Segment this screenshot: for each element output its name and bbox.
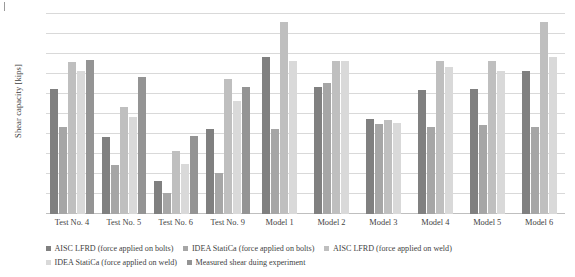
bar [242, 87, 250, 214]
chart-legend: AISC LFRD (force applied on bolts)IDEA S… [46, 243, 566, 268]
bar [289, 61, 297, 214]
bar [393, 123, 401, 214]
bar-group [98, 14, 150, 214]
legend-item: IDEA StatiCa (force applied on weld) [46, 257, 177, 268]
bar [77, 71, 85, 214]
bar-group [202, 14, 254, 214]
bar [181, 164, 189, 214]
bar [531, 127, 539, 214]
bar [427, 127, 435, 214]
bar [314, 87, 322, 214]
bar [233, 101, 241, 214]
bar-group-bars [154, 14, 198, 214]
legend-swatch-icon [324, 246, 329, 251]
bar-group-bars [262, 14, 297, 214]
bar-group-bars [470, 14, 505, 214]
bar-group-bars [206, 14, 250, 214]
bar [418, 90, 426, 214]
bar [262, 57, 270, 214]
bar [50, 89, 58, 214]
legend-label: IDEA StatiCa (force applied on bolts) [192, 244, 315, 253]
bar [332, 61, 340, 214]
legend-swatch-icon [46, 260, 51, 265]
bar [488, 61, 496, 214]
bar-group [357, 14, 409, 214]
x-axis-tick: Model 4 [409, 218, 461, 227]
bar [271, 129, 279, 214]
bar [129, 117, 137, 214]
bar-group [254, 14, 306, 214]
bar [445, 67, 453, 214]
x-axis-tick: Test No. 9 [202, 218, 254, 227]
legend-label: IDEA StatiCa (force applied on weld) [55, 258, 178, 267]
x-axis-tick-labels: Test No. 4Test No. 5Test No. 6Test No. 9… [46, 218, 565, 227]
bar [190, 136, 198, 214]
bar [163, 193, 171, 214]
bar [497, 71, 505, 214]
bar [280, 22, 288, 214]
bar [366, 119, 374, 214]
bar [138, 77, 146, 214]
bar [341, 61, 349, 214]
x-axis-tick: Model 3 [357, 218, 409, 227]
bar-group-bars [50, 14, 94, 214]
bar-group-bars [366, 14, 401, 214]
bar [86, 60, 94, 214]
corner-tick-mark [4, 2, 5, 11]
bar [111, 165, 119, 214]
bar-group-bars [102, 14, 146, 214]
y-axis-label: Shear capacity [kips] [13, 21, 23, 181]
bar [470, 89, 478, 214]
legend-label: AISC LFRD (force applied on weld) [333, 244, 452, 253]
x-axis-tick: Model 1 [254, 218, 306, 227]
legend-item: IDEA StatiCa (force applied on bolts) [183, 243, 314, 254]
bar [549, 57, 557, 214]
bar [479, 125, 487, 214]
bar-group-bars [522, 14, 557, 214]
bar [59, 127, 67, 214]
bar [375, 124, 383, 214]
x-axis-tick: Model 5 [461, 218, 513, 227]
bar [206, 129, 214, 214]
bar [540, 22, 548, 214]
bar [172, 151, 180, 214]
bar-group-bars [314, 14, 349, 214]
bar [154, 181, 162, 214]
bar-group [46, 14, 98, 214]
plot-area [46, 14, 565, 214]
legend-label: Measured shear duing experiment [196, 258, 306, 267]
legend-swatch-icon [183, 246, 188, 251]
bar-group [306, 14, 358, 214]
chart-figure: Shear capacity [kips] 030609012015018021… [0, 0, 575, 277]
x-axis-tick: Test No. 4 [46, 218, 98, 227]
bar [120, 107, 128, 214]
bar [522, 71, 530, 214]
legend-item: AISC LFRD (force applied on weld) [324, 243, 451, 254]
bar-group [409, 14, 461, 214]
bar [436, 61, 444, 214]
bar-group [513, 14, 565, 214]
bar [323, 83, 331, 214]
bar [215, 173, 223, 214]
legend-item: Measured shear duing experiment [187, 257, 305, 268]
bar [384, 120, 392, 214]
bar-group [150, 14, 202, 214]
bar-groups [46, 14, 565, 214]
bar-group [461, 14, 513, 214]
x-axis-tick: Test No. 6 [150, 218, 202, 227]
x-axis-tick: Model 6 [513, 218, 565, 227]
bar-group-bars [418, 14, 453, 214]
legend-item: AISC LFRD (force applied on bolts) [46, 243, 173, 254]
x-axis-tick: Test No. 5 [98, 218, 150, 227]
bar [68, 62, 76, 214]
bar [224, 79, 232, 214]
legend-swatch-icon [187, 260, 192, 265]
x-axis-tick: Model 2 [306, 218, 358, 227]
legend-label: AISC LFRD (force applied on bolts) [55, 244, 174, 253]
legend-swatch-icon [46, 246, 51, 251]
bar [102, 137, 110, 214]
